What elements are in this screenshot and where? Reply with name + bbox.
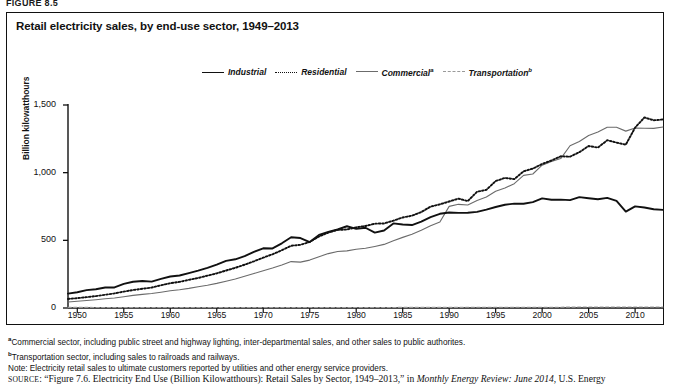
source-prefix: SOURCE	[8, 375, 39, 384]
legend-label-residential: Residential	[301, 67, 346, 77]
x-tick-label: 2010	[619, 310, 651, 320]
y-tick-label: 0	[20, 302, 56, 312]
legend-item-residential: Residential	[275, 67, 346, 77]
legend-label-commercial-sup: a	[430, 67, 433, 73]
figure-title: Retail electricity sales, by end-use sec…	[16, 20, 299, 32]
x-tick-label: 1950	[61, 310, 93, 320]
legend-item-transportation: Transportationb	[443, 67, 533, 78]
legend-item-commercial: Commerciala	[356, 67, 434, 78]
legend-label-commercial-text: Commercial	[382, 67, 431, 77]
legend-swatch-commercial-icon	[356, 68, 378, 75]
x-tick-label: 1955	[108, 310, 140, 320]
x-tick-label: 1990	[433, 310, 465, 320]
x-tick-label: 1965	[201, 310, 233, 320]
footnote-a-text: Commercial sector, including public stre…	[11, 338, 465, 347]
footnote-a: aCommercial sector, including public str…	[8, 333, 658, 348]
legend-label-transportation-text: Transportation	[469, 67, 529, 77]
x-tick-label: 1970	[247, 310, 279, 320]
legend-swatch-industrial-icon	[202, 69, 224, 76]
legend-swatch-residential-icon	[275, 69, 297, 76]
legend-label-industrial: Industrial	[228, 67, 266, 77]
footnote-b-text: Transportation sector, including sales t…	[12, 353, 240, 362]
source-italic: Monthly Energy Review: June 2014	[417, 373, 554, 384]
figure-number: FIGURE 8.5	[6, 0, 58, 8]
x-tick-label: 2005	[573, 310, 605, 320]
footnote-b: bTransportation sector, including sales …	[8, 348, 658, 363]
legend-item-industrial: Industrial	[202, 67, 266, 77]
legend-label-commercial: Commerciala	[382, 67, 434, 78]
legend-label-transportation-sup: b	[528, 67, 532, 73]
source-line: SOURCE: “Figure 7.6. Electricity End Use…	[8, 373, 674, 386]
legend-label-transportation: Transportationb	[469, 67, 533, 78]
legend-swatch-transportation-icon	[443, 68, 465, 75]
x-tick-label: 2000	[526, 310, 558, 320]
x-tick-label: 1995	[480, 310, 512, 320]
y-axis-label: Billion kilowatthours	[21, 76, 31, 160]
source-text-1: : “Figure 7.6. Electricity End Use (Bill…	[39, 373, 416, 384]
figure-frame	[6, 12, 664, 325]
figure-page: FIGURE 8.5 Retail electricity sales, by …	[0, 0, 674, 392]
x-tick-label: 1975	[294, 310, 326, 320]
y-tick-label: 500	[20, 234, 56, 244]
y-tick-label: 1,500	[20, 99, 56, 109]
x-tick-label: 1985	[387, 310, 419, 320]
x-tick-label: 1960	[154, 310, 186, 320]
figure-notes: aCommercial sector, including public str…	[8, 333, 658, 375]
x-tick-label: 1980	[340, 310, 372, 320]
chart-legend: Industrial Residential Commerciala Trans…	[196, 63, 538, 81]
source-text-2: , U.S. Energy	[554, 373, 606, 384]
y-tick-label: 1,000	[20, 167, 56, 177]
